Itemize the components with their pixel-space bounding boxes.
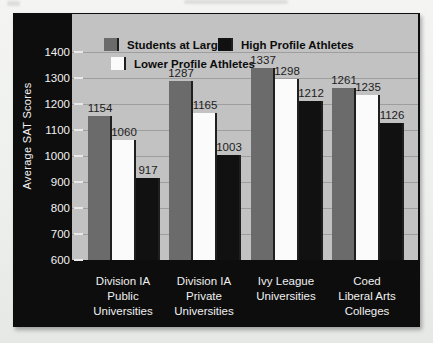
bar-value-label: 1003: [216, 141, 242, 154]
bar-students-at-large: [332, 88, 356, 260]
y-tick-mark: [74, 51, 83, 53]
bar-value-label: 1060: [111, 126, 137, 139]
bar-lower-profile-athletes: [112, 140, 136, 260]
bar-students-at-large: [88, 116, 112, 260]
bar-students-at-large: [251, 68, 275, 260]
legend-swatch: [218, 38, 233, 51]
y-tick-mark: [74, 129, 83, 131]
y-tick-mark: [74, 155, 83, 157]
bar-value-label: 1165: [193, 99, 218, 112]
bar-value-label: 1126: [380, 109, 405, 122]
bar-high-profile-athletes: [136, 178, 160, 260]
y-tick-mark: [74, 259, 83, 261]
legend-swatch: [111, 57, 126, 70]
category-label-line: Coed: [312, 274, 422, 289]
y-tick-label: 1200: [36, 98, 70, 110]
y-tick-label: 600: [36, 254, 70, 266]
y-tick-label: 800: [36, 202, 70, 214]
legend-label: Lower Profile Athletes: [134, 58, 255, 70]
bar-lower-profile-athletes: [356, 95, 380, 260]
scanned-book-page: { "page": { "background": "#eef0ee", "ar…: [0, 0, 433, 343]
page-number-smudge: [7, 1, 20, 6]
y-tick-mark: [74, 77, 83, 79]
bar-value-label: 1154: [88, 102, 113, 115]
y-tick-mark: [74, 181, 83, 183]
bar-value-label: 917: [138, 164, 157, 177]
bar-high-profile-athletes: [217, 155, 241, 260]
bar-students-at-large: [169, 81, 193, 260]
y-tick-label: 700: [36, 228, 70, 240]
category-label-line: Universities: [149, 304, 259, 319]
chart-panel: Average SAT Scores 115410609171287116510…: [13, 13, 420, 327]
y-tick-mark: [74, 233, 83, 235]
legend-swatch: [104, 38, 119, 51]
y-tick-label: 900: [36, 176, 70, 188]
bar-value-label: 1212: [298, 87, 324, 100]
y-tick-mark: [74, 207, 83, 209]
bar-lower-profile-athletes: [193, 113, 217, 260]
y-tick-label: 1000: [36, 150, 70, 162]
category-label-line: Liberal Arts: [312, 289, 422, 304]
y-tick-label: 1300: [36, 72, 70, 84]
gridline: [72, 52, 418, 53]
bar-high-profile-athletes: [299, 101, 323, 260]
bar-value-label: 1261: [331, 74, 357, 87]
legend-label: Students at Large: [127, 39, 224, 51]
y-tick-label: 1100: [36, 124, 70, 136]
bar-high-profile-athletes: [380, 123, 404, 260]
legend-label: High Profile Athletes: [241, 39, 354, 51]
category-label: CoedLiberal ArtsColleges: [312, 274, 422, 319]
plot-area: 1154106091712871165100313371298121212611…: [72, 14, 418, 260]
bar-value-label: 1235: [355, 81, 381, 94]
bar-value-label: 1298: [274, 65, 300, 78]
category-label-line: Colleges: [312, 304, 422, 319]
running-header-smudge: [184, 0, 288, 4]
y-tick-label: 1400: [36, 46, 70, 58]
y-axis-title: Average SAT Scores: [21, 76, 35, 196]
y-tick-mark: [74, 103, 83, 105]
gridline: [72, 78, 418, 79]
bar-lower-profile-athletes: [275, 79, 299, 260]
